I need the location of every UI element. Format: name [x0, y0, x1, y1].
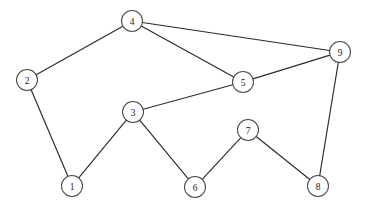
graph-edge-5-9	[253, 55, 330, 79]
graph-edge-2-4	[36, 26, 123, 75]
graph-node-2[interactable]: 2	[17, 70, 38, 91]
graph-edge-3-6	[140, 120, 189, 179]
graph-edge-3-5	[143, 85, 233, 109]
graph-edge-6-7	[202, 138, 241, 180]
graph-edge-1-2	[31, 90, 68, 177]
nodes-layer: 123456789	[17, 11, 351, 198]
graph-edge-4-9	[142, 23, 329, 51]
graph-node-label-8: 8	[316, 182, 321, 192]
graph-edge-8-9	[320, 62, 339, 175]
graph-svg-canvas: 123456789	[0, 0, 367, 206]
graph-node-label-5: 5	[241, 78, 246, 88]
graph-node-label-4: 4	[130, 17, 135, 27]
graph-edge-7-8	[256, 137, 310, 180]
graph-node-6[interactable]: 6	[185, 177, 206, 198]
graph-node-7[interactable]: 7	[238, 120, 259, 141]
graph-node-4[interactable]: 4	[122, 11, 143, 32]
graph-node-label-9: 9	[338, 48, 343, 58]
graph-node-label-7: 7	[246, 126, 251, 136]
graph-node-label-6: 6	[193, 183, 198, 193]
graph-node-5[interactable]: 5	[233, 72, 254, 93]
graph-node-label-1: 1	[70, 182, 75, 192]
graph-node-label-3: 3	[131, 108, 136, 118]
graph-edge-1-3	[79, 120, 127, 178]
graph-node-1[interactable]: 1	[62, 176, 83, 197]
graph-node-label-2: 2	[25, 76, 30, 86]
graph-node-8[interactable]: 8	[308, 176, 329, 197]
graph-node-3[interactable]: 3	[123, 102, 144, 123]
graph-diagram: 123456789	[0, 0, 367, 206]
graph-node-9[interactable]: 9	[330, 42, 351, 63]
edges-layer	[31, 23, 338, 180]
